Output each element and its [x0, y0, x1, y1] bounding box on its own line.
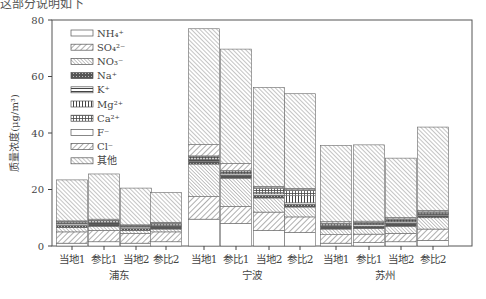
- y-tick-label: 80: [31, 15, 44, 26]
- legend-label: 其他: [97, 154, 117, 166]
- legend-item: Mg²⁺: [71, 99, 123, 110]
- x-tick-label: 参比2: [153, 253, 180, 265]
- y-axis-label: 质量浓度(μg/m³): [8, 94, 20, 172]
- bar-segment: [121, 188, 152, 225]
- legend-swatch: [71, 87, 93, 93]
- bar-segment: [386, 223, 417, 226]
- bar-segment: [221, 164, 252, 171]
- x-tick-label: 当地1: [191, 253, 218, 265]
- bar-segment: [254, 212, 285, 230]
- legend-item: Na⁺: [71, 70, 117, 81]
- bar-segment: [386, 158, 417, 217]
- bar-segment: [121, 230, 152, 233]
- bar-segment: [285, 196, 316, 203]
- bar-segment: [151, 227, 182, 229]
- bar-segment: [189, 164, 220, 196]
- chart-legend: NH₄⁺SO₄²⁻NO₃⁻Na⁺K⁺Mg²⁺Ca²⁺F⁻Cl⁻其他: [71, 28, 125, 167]
- bar-segment: [254, 198, 285, 212]
- bar-segment: [221, 49, 252, 163]
- bar-segment: [254, 88, 285, 187]
- bar-浦东-当地2: [121, 188, 152, 246]
- x-tick-label: 参比2: [287, 253, 314, 265]
- bar-segment: [57, 180, 88, 221]
- bar-苏州-参比2: [418, 127, 449, 246]
- bar-segment: [189, 145, 220, 156]
- bar-segment: [285, 217, 316, 233]
- bar-segment: [89, 226, 120, 230]
- bar-segment: [386, 226, 417, 233]
- legend-label: Na⁺: [97, 70, 117, 81]
- bar-segment: [418, 215, 449, 217]
- legend-label: Cl⁻: [97, 141, 113, 152]
- bar-segment: [354, 243, 385, 246]
- bar-segment: [89, 224, 120, 226]
- legend-item: SO₄²⁻: [71, 42, 125, 53]
- bar-segment: [189, 219, 220, 246]
- bar-苏州-参比1: [354, 145, 385, 246]
- bar-segment: [121, 243, 152, 246]
- bar-segment: [321, 229, 352, 235]
- y-tick-label: 0: [38, 241, 44, 252]
- bar-segment: [57, 225, 88, 227]
- legend-label: F⁻: [97, 127, 109, 138]
- bar-segment: [151, 193, 182, 223]
- group-label: 苏州: [375, 269, 395, 281]
- bar-segment: [221, 178, 252, 206]
- bar-segment: [354, 226, 385, 228]
- bar-宁波-参比1: [221, 49, 252, 246]
- bar-segment: [285, 94, 316, 189]
- group-label: 浦东: [109, 269, 129, 281]
- bar-segment: [321, 227, 352, 229]
- legend-label: Ca²⁺: [97, 113, 120, 124]
- x-tick-label: 参比1: [356, 253, 383, 265]
- bar-segment: [57, 243, 88, 246]
- legend-swatch: [71, 144, 93, 150]
- bar-segment: [189, 29, 220, 145]
- x-tick-label: 当地1: [323, 253, 350, 265]
- x-tick-label: 当地2: [123, 253, 150, 265]
- legend-swatch: [71, 115, 93, 121]
- bar-segment: [57, 232, 88, 243]
- bar-segment: [285, 204, 316, 207]
- bar-segment: [151, 232, 182, 242]
- bar-浦东-参比1: [89, 174, 120, 246]
- group-label: 宁波: [242, 269, 263, 281]
- legend-swatch: [71, 73, 93, 79]
- bar-segment: [418, 218, 449, 229]
- bar-宁波-参比2: [285, 94, 316, 246]
- bar-segment: [254, 230, 285, 246]
- bar-segment: [254, 188, 285, 192]
- bar-segment: [89, 242, 120, 246]
- legend-swatch: [71, 158, 93, 164]
- bar-浦东-参比2: [151, 193, 182, 246]
- legend-swatch: [71, 101, 93, 107]
- x-tick-label: 当地2: [388, 253, 415, 265]
- bar-segment: [321, 235, 352, 243]
- legend-label: NH₄⁺: [97, 28, 124, 39]
- bar-segment: [321, 145, 352, 221]
- bar-segment: [418, 127, 449, 210]
- legend-swatch: [71, 30, 93, 36]
- x-tick-label: 参比2: [420, 253, 447, 265]
- bar-segment: [151, 242, 182, 246]
- bar-segment: [189, 197, 220, 220]
- bar-宁波-当地2: [254, 88, 285, 246]
- bar-segment: [354, 228, 385, 234]
- bar-segment: [221, 223, 252, 246]
- legend-label: SO₄²⁻: [97, 42, 125, 53]
- legend-item: K⁺: [71, 84, 110, 95]
- bar-segment: [151, 229, 182, 232]
- y-tick-label: 40: [31, 128, 44, 139]
- bar-segment: [418, 240, 449, 246]
- x-tick-label: 当地1: [59, 253, 86, 265]
- bar-segment: [189, 161, 220, 164]
- legend-label: K⁺: [97, 84, 110, 95]
- legend-label: Mg²⁺: [97, 99, 123, 110]
- bar-segment: [89, 230, 120, 241]
- legend-swatch: [71, 58, 93, 64]
- y-tick-label: 60: [31, 71, 44, 82]
- bar-segment: [285, 207, 316, 217]
- legend-item: Ca²⁺: [71, 113, 120, 124]
- bar-segment: [354, 234, 385, 242]
- bar-segment: [321, 243, 352, 246]
